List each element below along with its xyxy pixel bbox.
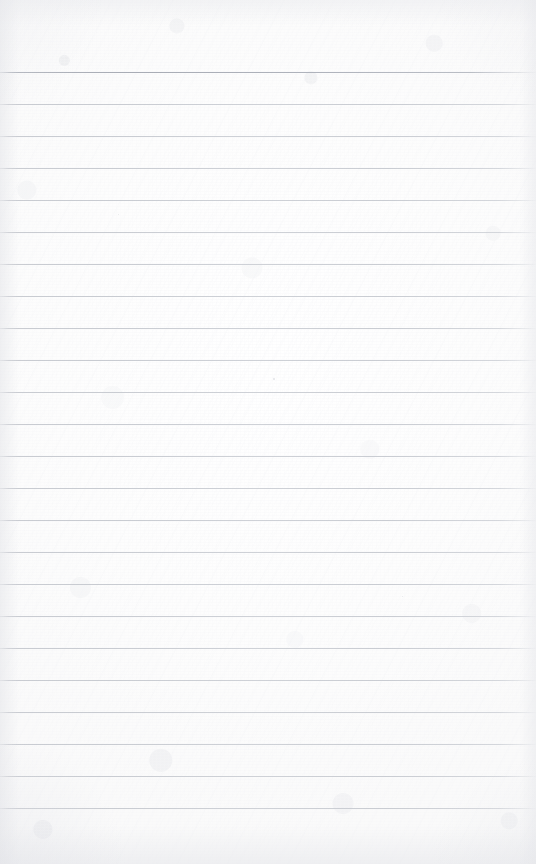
ruled-line [0,680,536,681]
ruled-line [0,360,536,361]
ruled-line [0,232,536,233]
ruled-line-group [0,0,536,864]
ruled-line [0,168,536,169]
ruled-line [0,520,536,521]
ruled-line [0,584,536,585]
ruled-line [0,616,536,617]
ruled-line [0,328,536,329]
ruled-line [0,200,536,201]
ruled-line [0,456,536,457]
ruled-line [0,296,536,297]
ruled-line [0,808,536,809]
ruled-line [0,104,536,105]
ruled-line [0,72,536,73]
ruled-line [0,648,536,649]
ruled-line [0,552,536,553]
ruled-line [0,424,536,425]
ruled-line [0,264,536,265]
ruled-line [0,776,536,777]
ruled-line [0,136,536,137]
ruled-line [0,488,536,489]
scanned-paper-page [0,0,536,864]
ruled-line [0,712,536,713]
ruled-line [0,392,536,393]
ruled-line [0,744,536,745]
